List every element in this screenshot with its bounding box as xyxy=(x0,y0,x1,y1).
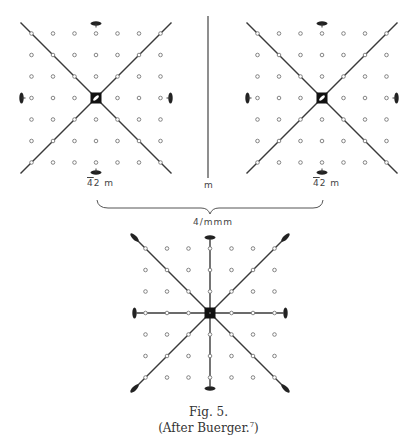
lattice-point xyxy=(385,53,389,57)
lattice-point xyxy=(342,139,346,143)
diad-icon xyxy=(132,308,136,319)
lattice-point xyxy=(273,376,277,380)
lattice-point xyxy=(94,53,98,57)
lattice-point xyxy=(299,96,303,100)
mirror-label: m xyxy=(204,180,214,190)
lattice-point xyxy=(273,268,277,272)
lattice-point xyxy=(73,139,77,143)
lattice-point xyxy=(94,161,98,165)
diad-icon xyxy=(280,232,291,243)
lattice-point xyxy=(256,139,260,143)
lattice-point xyxy=(51,32,55,36)
lattice-point xyxy=(94,75,98,79)
lattice-point xyxy=(251,333,255,337)
lattice-point xyxy=(159,32,163,36)
lattice-point xyxy=(385,161,389,165)
lattice-point xyxy=(159,96,163,100)
lattice-point xyxy=(51,75,55,79)
lattice-point xyxy=(277,53,281,57)
left-panel-label: 42 m xyxy=(87,178,114,188)
lattice-point xyxy=(137,53,141,57)
lattice-point xyxy=(137,75,141,79)
lattice-point xyxy=(159,53,163,57)
diad-icon xyxy=(129,383,140,394)
lattice-point xyxy=(208,376,212,380)
lattice-point xyxy=(320,139,324,143)
lattice-point xyxy=(208,268,212,272)
lattice-point xyxy=(94,139,98,143)
diad-icon xyxy=(205,235,216,239)
lattice-point xyxy=(116,118,120,122)
lattice-point xyxy=(256,96,260,100)
right-panel-4bar2m xyxy=(245,21,398,174)
lattice-point xyxy=(251,268,255,272)
lattice-point xyxy=(144,311,148,315)
lattice-point xyxy=(30,118,34,122)
lattice-point xyxy=(51,53,55,57)
lattice-point xyxy=(256,161,260,165)
lattice-point xyxy=(116,139,120,143)
lattice-point xyxy=(299,32,303,36)
lattice-point xyxy=(51,161,55,165)
lattice-point xyxy=(277,161,281,165)
lattice-point xyxy=(187,247,191,251)
lattice-point xyxy=(320,161,324,165)
lattice-point xyxy=(73,161,77,165)
bottom-panel-4mmm xyxy=(129,232,291,394)
lattice-point xyxy=(165,247,169,251)
lattice-point xyxy=(159,161,163,165)
lattice-point xyxy=(299,75,303,79)
lattice-point xyxy=(94,118,98,122)
lattice-point xyxy=(230,247,234,251)
lattice-point xyxy=(30,96,34,100)
lattice-point xyxy=(73,32,77,36)
lattice-point xyxy=(256,53,260,57)
lattice-point xyxy=(385,32,389,36)
lattice-point xyxy=(187,354,191,358)
lattice-point xyxy=(94,32,98,36)
lattice-point xyxy=(51,96,55,100)
combination-brace xyxy=(97,200,323,214)
lattice-point xyxy=(165,354,169,358)
lattice-point xyxy=(230,376,234,380)
lattice-point xyxy=(385,118,389,122)
left-panel-4bar2m xyxy=(19,21,172,174)
lattice-point xyxy=(30,75,34,79)
lattice-point xyxy=(256,75,260,79)
lattice-point xyxy=(363,161,367,165)
lattice-point xyxy=(159,118,163,122)
lattice-point xyxy=(137,118,141,122)
lattice-point xyxy=(342,161,346,165)
lattice-point xyxy=(30,32,34,36)
lattice-point xyxy=(73,118,77,122)
lattice-point xyxy=(230,333,234,337)
lattice-point xyxy=(30,161,34,165)
lattice-point xyxy=(230,354,234,358)
lattice-point xyxy=(342,75,346,79)
lattice-point xyxy=(273,354,277,358)
lattice-point xyxy=(208,247,212,251)
lattice-point xyxy=(116,161,120,165)
lattice-point xyxy=(159,139,163,143)
lattice-point xyxy=(187,376,191,380)
lattice-point xyxy=(277,75,281,79)
lattice-point xyxy=(299,118,303,122)
lattice-point xyxy=(342,118,346,122)
lattice-point xyxy=(385,96,389,100)
lattice-point xyxy=(165,376,169,380)
figure-caption: Fig. 5. xyxy=(0,405,417,419)
lattice-point xyxy=(342,32,346,36)
lattice-point xyxy=(137,96,141,100)
diad-icon xyxy=(283,308,287,319)
lattice-point xyxy=(363,118,367,122)
diad-icon xyxy=(280,383,291,394)
lattice-point xyxy=(159,75,163,79)
lattice-point xyxy=(363,32,367,36)
lattice-point xyxy=(30,139,34,143)
lattice-point xyxy=(144,290,148,294)
lattice-point xyxy=(116,53,120,57)
lattice-point xyxy=(51,139,55,143)
lattice-point xyxy=(251,247,255,251)
lattice-point xyxy=(116,32,120,36)
lattice-point xyxy=(256,32,260,36)
